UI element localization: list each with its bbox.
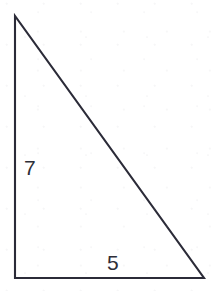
horizontal-leg-label: 5 xyxy=(107,252,119,273)
triangle-drawing xyxy=(0,0,216,291)
triangle-outline-path xyxy=(15,16,204,278)
triangle-figure: 7 5 xyxy=(0,0,216,291)
vertical-leg-label: 7 xyxy=(24,157,36,178)
